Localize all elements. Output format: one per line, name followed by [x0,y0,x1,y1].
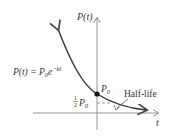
x-axis-label: t [156,117,159,128]
initial-point-marker [94,91,99,96]
half-value-label: 1 2 P0 [73,95,89,109]
formula-label: P(t) = P0e−kt [12,65,61,78]
initial-point-label: P0 [100,84,111,95]
half-life-tick [114,105,119,110]
half-life-label: Half-life [124,89,157,99]
exponential-decay-diagram: P(t) t P(t) = P0e−kt P0 1 2 P0 Half-life [0,0,173,139]
svg-text:P0: P0 [78,98,89,109]
y-axis-label: P(t) [76,11,93,23]
svg-text:1: 1 [74,95,77,101]
svg-text:2: 2 [74,102,77,108]
